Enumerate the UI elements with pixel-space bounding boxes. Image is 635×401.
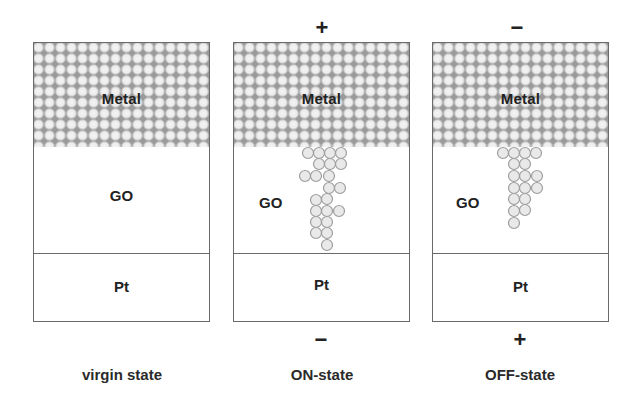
bottom-polarity-off: +: [505, 330, 535, 350]
off-state-filament: [0, 0, 635, 401]
filament-atoms: [498, 148, 543, 229]
caption-off-state: OFF-state: [430, 366, 610, 383]
